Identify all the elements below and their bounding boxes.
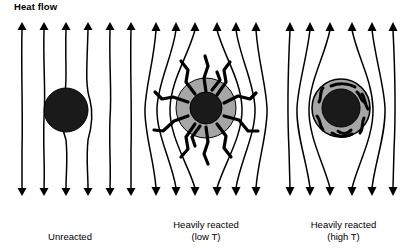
heat-flow-figure: Heat flow	[0, 0, 411, 248]
arrowhead-down-icon	[213, 22, 222, 31]
caption-line-1: Unreacted	[0, 231, 140, 243]
arrowhead-down-icon	[191, 187, 200, 196]
arrowhead-down-icon	[368, 187, 377, 196]
arrowhead-down-icon	[172, 187, 181, 196]
arrowhead-down-icon	[252, 187, 261, 196]
arrowhead-down-icon	[326, 22, 335, 31]
arrowhead-down-icon	[18, 188, 27, 196]
arrowhead-down-icon	[306, 187, 315, 196]
arrowhead-down-icon	[286, 22, 295, 31]
particle-core	[322, 89, 360, 127]
field-diagram-high-t	[276, 0, 411, 205]
arrowhead-down-icon	[18, 22, 27, 30]
arrowhead-down-icon	[152, 22, 161, 31]
caption-line-1: Heavily reacted	[276, 219, 411, 231]
caption-unreacted: Unreacted	[0, 231, 140, 243]
field-line	[157, 30, 176, 188]
arrowhead-down-icon	[191, 22, 200, 31]
arrowheads-top-group	[152, 22, 261, 31]
caption-heavily-reacted-high-t: Heavily reacted (high T)	[276, 219, 411, 242]
arrowhead-down-icon	[213, 187, 222, 196]
arrowhead-down-icon	[84, 22, 93, 30]
field-line	[131, 30, 132, 188]
arrowhead-down-icon	[286, 187, 295, 196]
arrowhead-down-icon	[40, 188, 49, 196]
field-line	[22, 30, 23, 188]
arrowhead-down-icon	[348, 187, 357, 196]
arrowhead-down-icon	[84, 188, 93, 196]
arrowhead-down-icon	[232, 22, 241, 31]
arrowhead-down-icon	[348, 22, 357, 31]
arrowheads-bottom-group	[152, 187, 261, 196]
particle-core	[190, 92, 222, 124]
field-line	[110, 30, 111, 188]
arrowhead-down-icon	[232, 187, 241, 196]
field-diagram-low-t	[138, 0, 274, 205]
arrowhead-down-icon	[62, 188, 71, 196]
field-line	[236, 30, 255, 188]
field-line	[288, 30, 290, 188]
field-line	[297, 30, 310, 188]
caption-heavily-reacted-low-t: Heavily reacted (low T)	[138, 219, 274, 242]
arrowhead-down-icon	[152, 187, 161, 196]
caption-line-1: Heavily reacted	[138, 219, 274, 231]
arrowhead-down-icon	[106, 188, 115, 196]
arrowhead-down-icon	[389, 22, 398, 31]
arrowhead-down-icon	[306, 22, 315, 31]
arrowheads-top-group	[18, 22, 136, 30]
caption-line-2: (low T)	[138, 231, 274, 243]
field-line	[256, 30, 267, 188]
arrowhead-down-icon	[62, 22, 71, 30]
heat-flow-label: Heat flow	[14, 1, 57, 12]
arrowhead-down-icon	[127, 22, 136, 30]
arrowhead-down-icon	[326, 187, 335, 196]
arrowhead-down-icon	[127, 188, 136, 196]
arrowhead-down-icon	[40, 22, 49, 30]
arrowhead-down-icon	[368, 22, 377, 31]
field-line	[372, 30, 385, 188]
caption-line-2: (high T)	[276, 231, 411, 243]
panel-heavily-reacted-low-t: Heavily reacted (low T)	[138, 0, 274, 248]
panel-heavily-reacted-high-t: Heavily reacted (high T)	[276, 0, 411, 248]
field-diagram-unreacted	[0, 0, 140, 205]
arrowhead-down-icon	[172, 22, 181, 31]
particle-reacted-high-t	[312, 79, 370, 137]
field-line	[145, 30, 156, 188]
arrowheads-bottom-group	[18, 188, 136, 196]
arrowheads-top-group	[286, 22, 398, 31]
particle-unreacted-core	[44, 88, 88, 132]
arrowhead-down-icon	[106, 22, 115, 30]
arrowhead-down-icon	[389, 187, 398, 196]
field-line	[393, 30, 395, 188]
panel-unreacted: Heat flow	[0, 0, 140, 248]
arrowheads-bottom-group	[286, 187, 398, 196]
arrowhead-down-icon	[252, 22, 261, 31]
